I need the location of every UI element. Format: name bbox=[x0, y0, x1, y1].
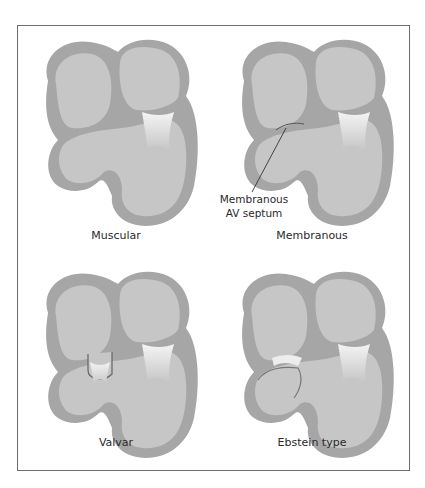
panel-caption: Valvar bbox=[18, 436, 214, 449]
heart-diagram-muscular bbox=[18, 26, 214, 246]
annotation-line-1: Membranous bbox=[214, 192, 294, 206]
panel-caption: Muscular bbox=[18, 229, 214, 242]
panel-caption: Ebstein type bbox=[214, 436, 410, 449]
panel-membranous: Membranous AV septum Membranous bbox=[214, 26, 410, 246]
panel-muscular: Muscular bbox=[18, 26, 214, 246]
annotation-label: Membranous AV septum bbox=[214, 192, 294, 220]
panel-ebstein: Ebstein type bbox=[214, 258, 410, 478]
panel-valvar: Valvar bbox=[18, 258, 214, 478]
panel-caption: Membranous bbox=[214, 229, 410, 242]
annotation-line-2: AV septum bbox=[214, 206, 294, 220]
